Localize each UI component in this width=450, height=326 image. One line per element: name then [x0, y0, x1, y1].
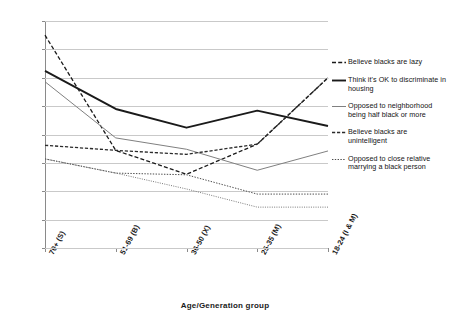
series-line: [45, 71, 328, 128]
chart-legend: Believe blacks are lazyThink it's OK to …: [332, 58, 448, 181]
legend-item-label: Think it's OK to discriminate in housing: [348, 76, 448, 93]
legend-line-swatch-icon: [332, 155, 346, 164]
legend-item: Opposed to close relative marrying a bla…: [332, 155, 448, 172]
legend-item-label: Opposed to close relative marrying a bla…: [348, 155, 448, 172]
x-axis-title: Age/Generation group: [0, 301, 450, 310]
legend-line-swatch-icon: [332, 102, 346, 111]
chart-figure: 0510152025303540 70+ (S)51-69 (B)36-50 (…: [0, 0, 450, 326]
legend-item-label: Believe blacks are lazy: [348, 58, 422, 67]
legend-line-swatch-icon: [332, 128, 346, 137]
series-line: [45, 35, 328, 174]
legend-item-label: Believe blacks are unintelligent: [348, 128, 448, 145]
plot-area: [45, 21, 328, 248]
gridline: [45, 248, 328, 249]
series-line: [45, 159, 328, 194]
legend-line-swatch-icon: [332, 58, 346, 67]
legend-line-swatch-icon: [332, 76, 346, 85]
legend-item: Opposed to neighborhood being half black…: [332, 102, 448, 119]
x-axis-tick-label: 18-24 (I & M): [330, 212, 359, 256]
legend-item: Believe blacks are unintelligent: [332, 128, 448, 145]
series-line: [45, 159, 328, 207]
legend-item: Believe blacks are lazy: [332, 58, 448, 67]
legend-item: Think it's OK to discriminate in housing: [332, 76, 448, 93]
series-lines: [45, 21, 328, 248]
series-line: [45, 82, 328, 171]
legend-item-label: Opposed to neighborhood being half black…: [348, 102, 448, 119]
